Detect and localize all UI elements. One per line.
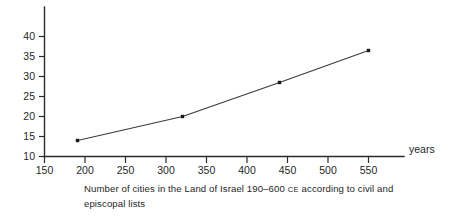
y-tick-label: 30 xyxy=(23,70,35,82)
y-tick-label: 10 xyxy=(23,150,35,162)
x-tick-label: 550 xyxy=(360,164,378,176)
line-chart: 40 35 30 25 20 15 10 150 200 250 300 35 xyxy=(0,0,454,180)
caption-line2: episcopal lists xyxy=(84,197,414,211)
data-point-markers xyxy=(76,49,370,142)
y-tick-label: 15 xyxy=(23,130,35,142)
y-tick-label: 20 xyxy=(23,110,35,122)
x-tick-label: 500 xyxy=(319,164,337,176)
x-axis-ticks xyxy=(45,157,369,164)
y-axis-tick-labels: 40 35 30 25 20 15 10 xyxy=(23,30,35,162)
x-axis-label: years xyxy=(409,143,435,155)
x-tick-label: 450 xyxy=(279,164,297,176)
x-tick-label: 350 xyxy=(198,164,216,176)
chart-figure: 40 35 30 25 20 15 10 150 200 250 300 35 xyxy=(0,0,454,222)
caption-era: CE xyxy=(288,185,299,194)
y-tick-label: 35 xyxy=(23,50,35,62)
data-point-marker xyxy=(367,49,370,52)
data-point-marker xyxy=(278,81,281,84)
caption-line1-before: Number of cities in the Land of Israel 1… xyxy=(84,183,288,194)
y-tick-label: 40 xyxy=(23,30,35,42)
x-tick-label: 200 xyxy=(76,164,94,176)
chart-caption: Number of cities in the Land of Israel 1… xyxy=(84,182,414,210)
y-axis-ticks xyxy=(39,37,45,157)
x-tick-label: 150 xyxy=(36,164,54,176)
data-point-marker xyxy=(181,115,184,118)
data-point-marker xyxy=(76,139,79,142)
y-tick-label: 25 xyxy=(23,90,35,102)
caption-line1-after: according to civil and xyxy=(299,183,394,194)
data-series-line xyxy=(78,51,369,141)
x-tick-label: 300 xyxy=(157,164,175,176)
x-tick-label: 250 xyxy=(117,164,135,176)
x-axis-tick-labels: 150 200 250 300 350 400 450 500 550 xyxy=(36,164,378,176)
x-tick-label: 400 xyxy=(238,164,256,176)
